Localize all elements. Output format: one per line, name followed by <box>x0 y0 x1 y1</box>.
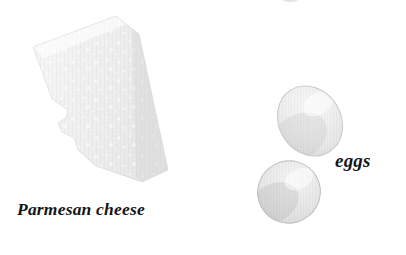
label-parmesan-cheese: Parmesan cheese <box>17 199 145 220</box>
label-eggs: eggs <box>335 150 371 172</box>
illustration-canvas: Parmesan cheese eggs <box>0 0 406 255</box>
